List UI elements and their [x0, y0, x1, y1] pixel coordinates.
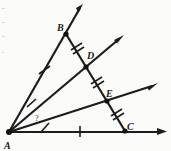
label-D: D: [86, 50, 94, 61]
transversal-group: [66, 34, 125, 131]
vertex-A-dot: [6, 129, 12, 135]
geometry-canvas: A B D E C ?: [0, 0, 171, 151]
segment-BC: [66, 34, 125, 131]
label-A: A: [3, 140, 11, 151]
tick-AB-mid: [39, 66, 50, 74]
geometry-figure: A B D E C ?: [0, 0, 171, 151]
ray-AE-arrowhead: [147, 83, 158, 91]
point-B-dot: [63, 31, 68, 36]
ray-AD: [9, 39, 119, 132]
label-E: E: [105, 88, 113, 99]
unknown-angle-marker: ?: [35, 114, 39, 123]
paper-texture: [2, 8, 5, 53]
ray-AC-arrowhead: [157, 128, 167, 135]
tick-ray-AE: [41, 123, 49, 132]
point-D-dot: [83, 64, 88, 69]
label-C: C: [127, 121, 134, 132]
label-B: B: [56, 22, 64, 33]
point-E-dot: [104, 98, 109, 103]
